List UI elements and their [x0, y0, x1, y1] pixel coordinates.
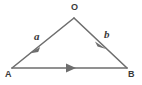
- vector-label-b: b: [104, 29, 110, 40]
- vector-a-line: [12, 18, 74, 68]
- vector-b-line: [74, 18, 127, 68]
- vertex-label-a: A: [5, 70, 12, 79]
- vertex-label-b: B: [128, 70, 135, 79]
- triangle-graphic: [0, 0, 142, 85]
- vector-triangle-diagram: O A B a b: [0, 0, 142, 85]
- vertex-label-o: O: [71, 3, 78, 12]
- vector-ab-arrowhead-icon: [66, 63, 76, 72]
- vector-label-a: a: [34, 31, 40, 42]
